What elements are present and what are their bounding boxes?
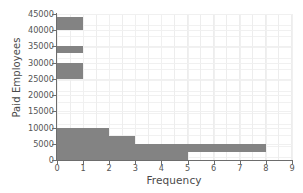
- x-tick-label: 4: [151, 163, 171, 173]
- x-tick-mark: [240, 161, 241, 165]
- gridline-horizontal: [57, 63, 292, 64]
- gridline-horizontal: [57, 14, 292, 15]
- y-tick-label: 25000: [20, 75, 54, 83]
- y-tick-mark: [52, 63, 56, 64]
- y-tick-mark: [52, 79, 56, 80]
- gridline-vertical: [266, 14, 267, 160]
- bar-band-40000-44000: [57, 17, 83, 30]
- y-tick-mark: [52, 128, 56, 129]
- x-tick-mark: [292, 161, 293, 165]
- x-tick-mark: [214, 161, 215, 165]
- x-tick-label: 8: [256, 163, 276, 173]
- x-tick-label: 7: [230, 163, 250, 173]
- x-tick-mark: [83, 161, 84, 165]
- chart-container: 0500010000150002000025000300003500040000…: [0, 0, 303, 193]
- plot-area: [57, 14, 292, 160]
- x-tick-mark: [135, 161, 136, 165]
- x-tick-mark: [188, 161, 189, 165]
- y-tick-label: 10000: [20, 124, 54, 132]
- bar-band-25000-30000: [57, 63, 83, 79]
- bar-band-5-8-2500-5000: [188, 144, 266, 152]
- x-tick-mark: [109, 161, 110, 165]
- y-tick-label: 20000: [20, 91, 54, 99]
- x-tick-label: 3: [125, 163, 145, 173]
- y-axis-title: Paid Employees: [11, 18, 22, 138]
- y-tick-mark: [52, 46, 56, 47]
- y-tick-mark: [52, 30, 56, 31]
- gridline-vertical: [240, 14, 241, 160]
- bar-step-0-2-10000: [57, 128, 109, 160]
- x-tick-label: 2: [99, 163, 119, 173]
- y-tick-mark: [52, 160, 56, 161]
- gridline-horizontal: [57, 79, 292, 80]
- x-tick-label: 5: [178, 163, 198, 173]
- x-axis-line: [56, 160, 293, 161]
- gridline-horizontal: [57, 111, 292, 112]
- x-tick-mark: [57, 161, 58, 165]
- gridline-horizontal: [57, 46, 292, 47]
- gridline-vertical: [188, 14, 189, 160]
- y-tick-mark: [52, 111, 56, 112]
- gridline-vertical: [161, 14, 162, 160]
- y-tick-label: 35000: [20, 42, 54, 50]
- x-tick-mark: [266, 161, 267, 165]
- gridline-vertical: [135, 14, 136, 160]
- gridline-vertical: [214, 14, 215, 160]
- bar-band-33000-35000: [57, 46, 83, 52]
- y-tick-label: 40000: [20, 26, 54, 34]
- x-tick-label: 0: [47, 163, 67, 173]
- x-tick-label: 6: [204, 163, 224, 173]
- y-tick-mark: [52, 95, 56, 96]
- bar-step-2-3-7500: [109, 136, 135, 160]
- bar-step-3-5-5000: [135, 144, 187, 160]
- gridline-horizontal: [57, 30, 292, 31]
- y-tick-mark: [52, 14, 56, 15]
- gridline-vertical: [292, 14, 293, 160]
- x-tick-label: 9: [282, 163, 302, 173]
- y-axis-line: [56, 13, 57, 161]
- gridline-horizontal: [57, 95, 292, 96]
- x-tick-mark: [161, 161, 162, 165]
- y-tick-mark: [52, 144, 56, 145]
- y-tick-label: 5000: [20, 140, 54, 148]
- x-tick-label: 1: [73, 163, 93, 173]
- y-tick-label: 30000: [20, 59, 54, 67]
- x-axis-title: Frequency: [55, 174, 293, 186]
- y-tick-label: 45000: [20, 10, 54, 18]
- y-tick-label: 15000: [20, 107, 54, 115]
